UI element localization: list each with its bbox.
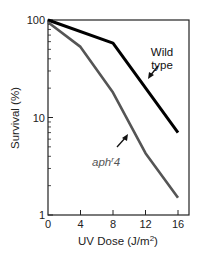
x-tick-label: 0 [45, 218, 51, 230]
annotation-aph-main: aph [92, 156, 111, 168]
x-tick-label: 12 [139, 218, 151, 230]
x-ticks: 0481216 [45, 210, 184, 230]
x-tick-label: 8 [110, 218, 116, 230]
x-axis-title-main: UV Dose (J/m [78, 235, 150, 247]
annotation-wild-type-line1: Wild [151, 46, 173, 58]
x-tick-label: 4 [77, 218, 83, 230]
survival-chart: 0481216 110100 Survival (%) UV Dose (J/m… [0, 0, 203, 254]
x-tick-label: 16 [172, 218, 184, 230]
y-tick-label: 10 [33, 112, 45, 124]
annotation-aph-r4: aphr4 [92, 155, 120, 168]
y-ticks: 110100 [27, 14, 53, 221]
annotation-wild-type-line2: type [151, 59, 173, 71]
y-tick-label: 100 [27, 14, 45, 26]
x-axis-title-tail: ) [154, 235, 158, 247]
arrow-aph-r4 [117, 134, 128, 147]
x-axis-title: UV Dose (J/m2) [78, 234, 158, 247]
y-tick-label: 1 [39, 209, 45, 221]
annotation-aph-tail: 4 [114, 156, 120, 168]
y-axis-title: Survival (%) [9, 87, 21, 149]
